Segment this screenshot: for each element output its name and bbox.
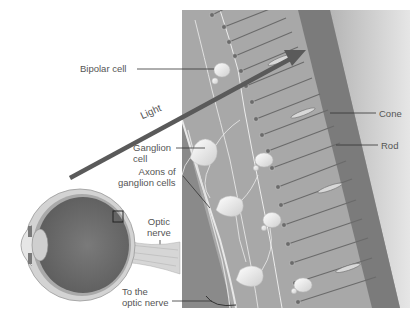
- label-axons-line2: ganglion cells: [118, 177, 176, 188]
- label-ganglion-line2: cell: [133, 153, 171, 164]
- label-optic-nerve-line2: nerve: [147, 227, 171, 238]
- label-optic-nerve-line1: Optic: [147, 216, 171, 227]
- retina-diagram: [0, 0, 420, 318]
- retina-panel: [182, 0, 410, 308]
- label-rod: Rod: [381, 140, 398, 151]
- label-ganglion-cell: Ganglion cell: [133, 142, 171, 164]
- label-optic-nerve: Optic nerve: [147, 216, 171, 238]
- label-to-optic-nerve-line1: To the: [122, 286, 168, 297]
- label-cone: Cone: [379, 108, 402, 119]
- label-to-the-optic-nerve: To the optic nerve: [122, 286, 168, 308]
- label-to-optic-nerve-line2: optic nerve: [122, 297, 168, 308]
- label-bipolar-cell: Bipolar cell: [80, 63, 126, 74]
- eyeball-illustration: [21, 189, 180, 301]
- label-ganglion-line1: Ganglion: [133, 142, 171, 153]
- label-axons-line1: Axons of: [118, 166, 176, 177]
- label-axons-of-ganglion-cells: Axons of ganglion cells: [118, 166, 176, 188]
